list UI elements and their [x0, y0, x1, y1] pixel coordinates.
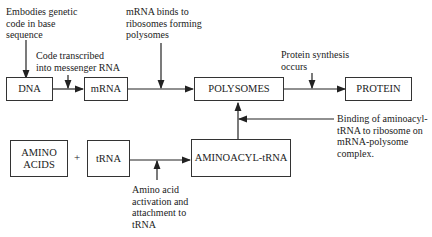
node-polysomes-label: POLYSOMES — [208, 83, 269, 95]
node-protein-label: PROTEIN — [356, 83, 400, 95]
node-dna: DNA — [6, 77, 53, 101]
note-dna: Embodies genetic code in base sequence — [6, 6, 77, 41]
node-aminoacyl-trna-label: AMINOACYL-tRNA — [195, 152, 288, 164]
node-mrna-label: mRNA — [91, 83, 121, 95]
node-amino-acids: AMINO ACIDS — [10, 140, 68, 177]
node-aminoacyl-trna: AMINOACYL-tRNA — [191, 139, 291, 177]
note-mrna: mRNA binds to ribosomes forming polysome… — [126, 6, 202, 41]
node-polysomes: POLYSOMES — [194, 77, 284, 101]
note-synthesis: Protein synthesis occurs — [281, 49, 349, 72]
note-activation: Amino acid activation and attachment to … — [132, 184, 188, 230]
node-trna: tRNA — [87, 140, 130, 177]
node-dna-label: DNA — [18, 83, 41, 95]
note-binding: Binding of aminoacyl- tRNA to ribosome o… — [337, 113, 428, 159]
note-transcription: Code transcribed into messenger RNA — [36, 50, 120, 73]
node-amino-acids-label: AMINO ACIDS — [21, 147, 57, 171]
node-protein: PROTEIN — [345, 77, 412, 101]
node-trna-label: tRNA — [96, 153, 121, 165]
plus-operator: + — [74, 151, 80, 163]
node-mrna: mRNA — [84, 77, 128, 101]
